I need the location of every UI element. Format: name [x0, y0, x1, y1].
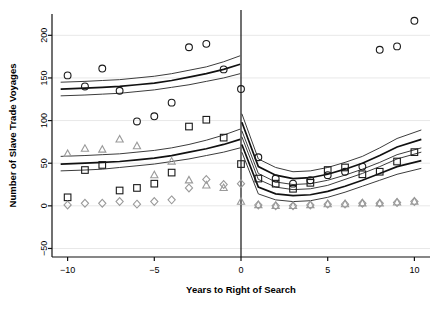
scatter-plot-svg: −50050100150200−10−50510 Years to Right … [0, 0, 436, 315]
data-point-squares [116, 187, 123, 194]
data-point-circles [151, 113, 158, 120]
data-point-squares [186, 123, 193, 130]
data-point-triangles [133, 142, 140, 149]
y-axis-title: Number of Slave Trade Voyages [7, 64, 18, 208]
data-point-diamonds [116, 198, 123, 206]
data-point-squares [168, 169, 175, 176]
data-point-circles [168, 99, 175, 106]
data-point-triangles [151, 171, 158, 178]
data-point-circles [394, 43, 401, 50]
y-tick-label: −50 [39, 241, 49, 256]
tick-labels: −50050100150200−10−50510 [39, 28, 419, 275]
data-point-triangles [99, 146, 106, 153]
data-point-triangles [64, 150, 71, 157]
data-point-triangles [116, 135, 123, 142]
data-point-diamonds [133, 200, 140, 208]
y-tick-label: 200 [39, 28, 49, 43]
data-point-circles [272, 175, 279, 182]
y-tick-label: 100 [39, 113, 49, 128]
data-point-circles [376, 46, 383, 53]
data-point-circles [134, 118, 141, 125]
data-point-squares [151, 180, 158, 187]
data-point-diamonds [151, 198, 158, 206]
fit-line [242, 122, 421, 178]
ci-lower-line [242, 152, 421, 201]
data-point-diamonds [168, 196, 175, 204]
data-point-squares [134, 185, 141, 192]
data-point-diamonds [185, 184, 192, 192]
y-tick-label: 0 [39, 203, 49, 208]
data-point-triangles [81, 145, 88, 152]
data-point-circles [99, 65, 106, 72]
y-tick-label: 50 [39, 158, 49, 168]
ci-upper-line [61, 129, 240, 156]
x-tick-label: 10 [409, 265, 419, 275]
x-tick-label: 0 [238, 265, 243, 275]
y-tick-label: 150 [39, 70, 49, 85]
data-point-squares [203, 116, 210, 123]
data-point-circles [290, 180, 297, 187]
data-point-squares [64, 194, 71, 201]
x-tick-label: −10 [60, 265, 75, 275]
chart-figure: −50050100150200−10−50510 Years to Right … [0, 0, 436, 315]
x-tick-label: 5 [325, 265, 330, 275]
data-point-triangles [185, 176, 192, 183]
data-point-circles [186, 44, 193, 51]
data-point-diamonds [64, 201, 71, 209]
axes [48, 14, 430, 261]
fit-line [242, 144, 421, 195]
data-point-circles [411, 17, 418, 24]
x-tick-label: −5 [149, 265, 159, 275]
data-point-circles [255, 154, 262, 161]
x-axis-title: Years to Right of Search [186, 284, 296, 295]
data-point-triangles [203, 181, 210, 188]
data-point-circles [203, 40, 210, 47]
